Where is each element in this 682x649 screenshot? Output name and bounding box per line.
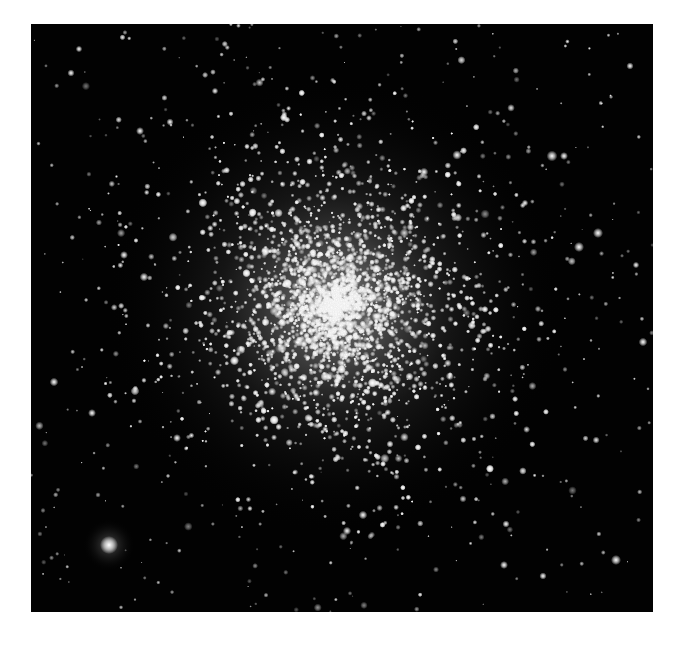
star-field-canvas [31,24,653,612]
star-cluster-photo [31,24,653,612]
